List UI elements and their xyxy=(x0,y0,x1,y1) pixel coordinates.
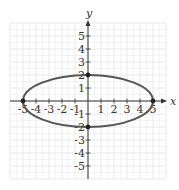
y-tick-label: -1 xyxy=(74,108,85,121)
y-tick-label: 1 xyxy=(78,82,85,95)
x-tick-label: -2 xyxy=(57,103,68,116)
x-tick-label: 3 xyxy=(124,103,131,116)
x-tick-label: -3 xyxy=(44,103,55,116)
y-tick-label: -3 xyxy=(74,134,85,147)
x-tick-label: 4 xyxy=(137,103,144,116)
y-tick-label: -5 xyxy=(74,160,85,173)
x-tick-label: 1 xyxy=(98,103,105,116)
x-tick-label: 2 xyxy=(111,103,118,116)
marked-point xyxy=(86,73,91,78)
marked-point xyxy=(21,99,26,104)
y-tick-label: 4 xyxy=(78,43,85,56)
y-tick-label: -4 xyxy=(74,147,85,160)
axes xyxy=(10,20,167,179)
x-axis-label: x xyxy=(170,95,177,108)
ellipse-chart: -5-4-3-2-112345-5-4-3-2-112345 x y xyxy=(0,0,179,190)
y-tick-label: 3 xyxy=(78,56,85,69)
y-axis-label: y xyxy=(85,7,93,20)
marked-point xyxy=(151,99,156,104)
y-tick-label: 5 xyxy=(78,30,85,43)
marked-point xyxy=(86,125,91,130)
